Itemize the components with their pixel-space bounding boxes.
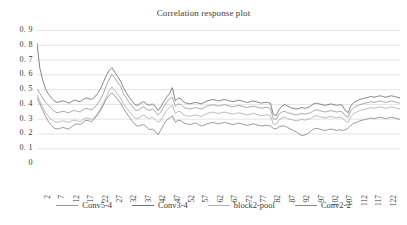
y-axis: 0. 90. 80. 70. 60. 50. 40. 30. 20. 10 <box>0 30 35 163</box>
y-axis-tick-label: 0. 4 <box>19 100 33 108</box>
x-axis: 2712172227323742475257626772778287929710… <box>37 165 400 197</box>
y-axis-tick-label: 0. 9 <box>19 26 33 34</box>
legend-label: block2-pool <box>234 200 275 210</box>
legend-line-swatch <box>295 205 317 206</box>
legend-item[interactable]: Conv3-4 <box>132 200 188 210</box>
series-line-conv3-4 <box>37 43 400 115</box>
y-axis-tick-label: 0. 1 <box>19 144 33 152</box>
plot-svg <box>37 30 400 163</box>
y-axis-tick-label: 0. 2 <box>19 129 33 137</box>
legend-item[interactable]: Conv2-2 <box>295 200 351 210</box>
x-axis-tick-label: 7 <box>58 195 66 199</box>
legend-label: Conv3-4 <box>158 200 188 210</box>
series-line-conv5-4 <box>37 74 400 119</box>
y-axis-tick-label: 0. 6 <box>19 70 33 78</box>
y-axis-tick-label: 0. 5 <box>19 85 33 93</box>
legend-line-swatch <box>56 205 78 206</box>
y-axis-tick-label: 0. 7 <box>19 56 33 64</box>
legend-line-swatch <box>132 205 154 206</box>
y-axis-tick-label: 0. 8 <box>19 41 33 49</box>
x-axis-tick-label: 2 <box>44 195 52 199</box>
legend-line-swatch <box>208 205 230 206</box>
chart-legend: Conv5-4Conv3-4block2-poolConv2-2 <box>0 200 407 210</box>
y-axis-tick-label: 0 <box>29 159 33 167</box>
legend-item[interactable]: block2-pool <box>208 200 275 210</box>
legend-label: Conv2-2 <box>321 200 351 210</box>
chart-title: Correlation response plot <box>0 8 407 18</box>
legend-item[interactable]: Conv5-4 <box>56 200 112 210</box>
plot-area <box>37 30 400 163</box>
correlation-response-chart: Correlation response plot 0. 90. 80. 70.… <box>0 0 407 225</box>
y-axis-tick-label: 0. 3 <box>19 115 33 123</box>
legend-label: Conv5-4 <box>82 200 112 210</box>
